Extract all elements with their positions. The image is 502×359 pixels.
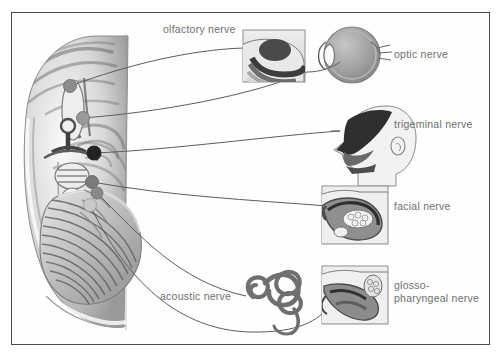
origin-dot-optic xyxy=(77,112,90,125)
label-glossopharyngeal-nerve-line2: pharyngeal nerve xyxy=(394,292,479,305)
cochlea-diagram xyxy=(248,268,304,334)
origin-dot-glossopharyngeal xyxy=(84,199,97,212)
leader-trigeminal xyxy=(94,131,340,153)
origin-dot-facial xyxy=(86,176,99,189)
cranial-nerve-figure: olfactory nerve optic nerve trigeminal n… xyxy=(0,0,502,359)
mouth-tongue-inset xyxy=(318,186,388,244)
label-facial-nerve: facial nerve xyxy=(394,200,451,213)
label-olfactory-nerve: olfactory nerve xyxy=(163,23,236,36)
label-glossopharyngeal-nerve-line1: glosso- xyxy=(394,279,430,292)
leader-facial xyxy=(92,182,328,206)
label-acoustic-nerve: acoustic nerve xyxy=(160,290,231,303)
origin-dot-olfactory xyxy=(64,80,77,93)
label-optic-nerve: optic nerve xyxy=(394,48,448,61)
origin-dot-trigeminal xyxy=(87,146,102,161)
brain-illustration xyxy=(24,34,141,330)
pharynx-inset xyxy=(318,266,388,324)
eyeball-diagram xyxy=(307,27,392,83)
origin-dot-acoustic xyxy=(91,187,103,199)
nasal-cavity-inset xyxy=(240,30,305,90)
label-trigeminal-nerve: trigeminal nerve xyxy=(394,118,473,131)
